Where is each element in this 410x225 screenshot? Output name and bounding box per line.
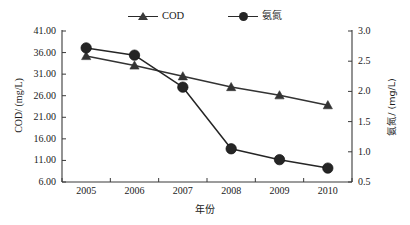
data-point-marker: [178, 82, 188, 92]
series-line: [86, 48, 328, 168]
series-cod: [82, 51, 333, 108]
series-line: [86, 56, 328, 105]
chart-figure: COD 氨氮 COD/ (mg/L) 氨氮/ (mg/L) 年份 6.0011.…: [0, 0, 410, 225]
data-point-marker: [323, 163, 333, 173]
data-point-marker: [81, 43, 91, 53]
data-point-marker: [226, 144, 236, 154]
data-point-marker: [129, 50, 139, 60]
plot-area: [0, 0, 410, 225]
data-point-marker: [274, 154, 284, 164]
